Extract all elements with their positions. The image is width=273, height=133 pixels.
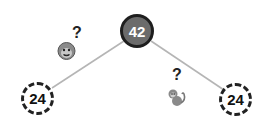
- root-node: 42: [120, 14, 154, 48]
- right-child-node: 24: [219, 83, 252, 116]
- monkey-face-icon: [57, 41, 76, 61]
- left-child-node: 24: [21, 82, 54, 115]
- left-child-value: 24: [29, 90, 46, 107]
- monkey-icon: [167, 88, 187, 108]
- right-child-value: 24: [227, 91, 244, 108]
- edge-root-right: [151, 41, 224, 90]
- question-mark-right: ?: [172, 66, 182, 84]
- root-node-value: 42: [129, 23, 146, 40]
- question-mark-left: ?: [72, 24, 82, 42]
